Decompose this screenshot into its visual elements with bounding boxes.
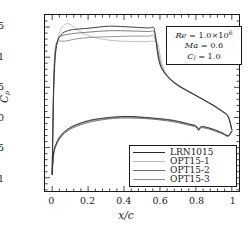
- x-tick-label: 0.6: [140, 196, 180, 206]
- cp-distribution-chart: −1.5−1−0.500.51 00.20.40.60.81 Cp x/c Re…: [0, 0, 252, 228]
- legend-color-swatch: [133, 152, 165, 153]
- x-tick-label: 0.8: [176, 196, 216, 206]
- x-tick-label: 1: [213, 196, 252, 206]
- reynolds-exponent: 6: [229, 29, 233, 36]
- reynolds-number-line: Re = 1.0×106: [170, 29, 238, 40]
- y-tick-label: −1: [0, 52, 4, 62]
- y-tick-label: 1: [0, 174, 4, 184]
- x-tick-label: 0: [31, 196, 71, 206]
- x-tick-label: 0.4: [104, 196, 144, 206]
- reynolds-symbol: Re: [175, 30, 186, 40]
- mach-symbol: Ma: [185, 40, 198, 50]
- legend-color-swatch: [133, 161, 165, 162]
- lift-value: = 1.0: [196, 51, 221, 61]
- y-tick-label: 0: [0, 113, 4, 123]
- legend-color-swatch: [133, 179, 165, 180]
- x-axis-label: x/c: [0, 209, 252, 221]
- y-tick-label: −1.5: [0, 21, 4, 31]
- legend-label: OPT15-3: [170, 175, 210, 184]
- legend-item: OPT15-3: [133, 175, 233, 184]
- mach-number-line: Ma = 0.6: [170, 40, 238, 51]
- mach-value: = 0.6: [198, 40, 223, 50]
- lift-coefficient-line: Cl = 1.0: [170, 51, 238, 62]
- y-tick-label: 0.5: [0, 143, 4, 153]
- y-axis-label: Cp: [0, 91, 10, 103]
- y-axis-label-text: C: [0, 95, 10, 103]
- x-tick-label: 0.2: [68, 196, 108, 206]
- flow-conditions-annotation: Re = 1.0×106 Ma = 0.6 Cl = 1.0: [166, 26, 242, 65]
- y-axis-label-sub: p: [3, 91, 10, 95]
- reynolds-value: = 1.0×10: [186, 30, 228, 40]
- legend: LRN1015OPT15-1OPT15-2OPT15-3: [129, 145, 237, 187]
- legend-color-swatch: [133, 170, 165, 171]
